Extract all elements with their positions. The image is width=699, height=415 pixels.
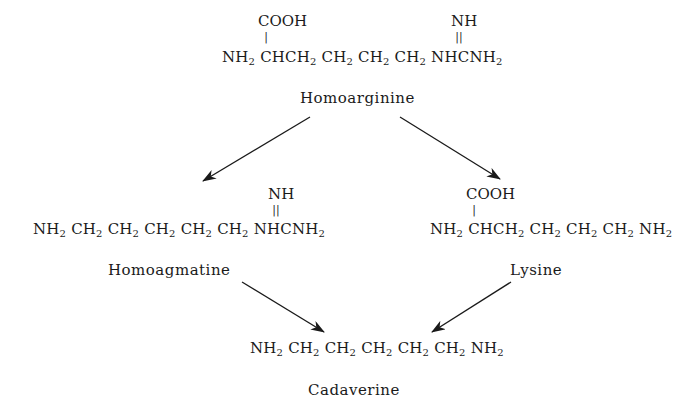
cadaverine-formula: NH2 CH2 CH2 CH2 CH2 CH2 NH2 <box>250 339 504 357</box>
lysine-formula: NH2 CHCH2 CH2 CH2 CH2 NH2 <box>430 220 672 238</box>
homoarginine-single-bond: | <box>262 32 270 42</box>
arrow-homoarginine-to-lysine <box>400 117 500 179</box>
arrow-homoagmatine-to-cadaverine <box>242 282 324 332</box>
homoarginine-label: Homoarginine <box>300 89 415 107</box>
homoagmatine-imino-group: NH <box>268 186 294 202</box>
arrow-lysine-to-cadaverine <box>432 282 511 332</box>
homoagmatine-double-bond: || <box>270 205 282 215</box>
homoarginine-double-bond: || <box>453 32 465 42</box>
lysine-single-bond: | <box>470 205 478 215</box>
homoarginine-formula: NH2 CHCH2 CH2 CH2 CH2 NHCNH2 <box>222 48 503 66</box>
lysine-label: Lysine <box>510 261 562 279</box>
cadaverine-label: Cadaverine <box>308 381 400 399</box>
arrow-homoarginine-to-homoagmatine <box>203 117 310 181</box>
homoarginine-imino-group: NH <box>451 13 477 29</box>
homoagmatine-label: Homoagmatine <box>108 261 230 279</box>
lysine-carboxyl-group: COOH <box>466 186 515 202</box>
homoagmatine-formula: NH2 CH2 CH2 CH2 CH2 CH2 NHCNH2 <box>33 220 325 238</box>
homoarginine-carboxyl-group: COOH <box>258 13 307 29</box>
